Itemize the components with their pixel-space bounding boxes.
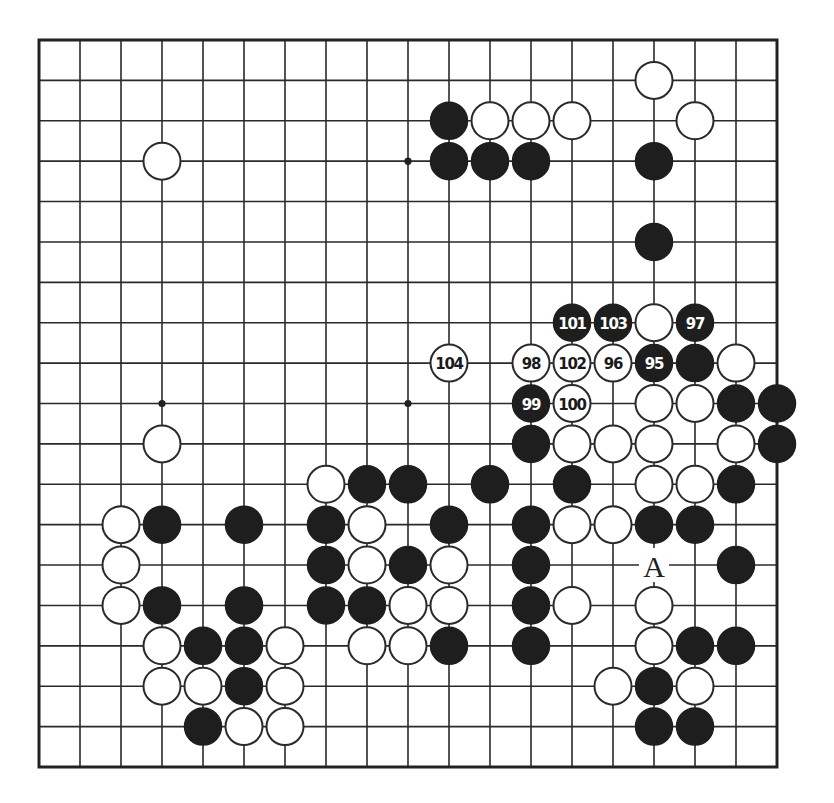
black-stone xyxy=(472,143,509,180)
black-stone xyxy=(144,506,181,543)
black-stone xyxy=(349,466,386,503)
black-stone-icon xyxy=(718,466,755,503)
black-stone xyxy=(390,466,427,503)
white-stone xyxy=(144,143,181,180)
white-stone xyxy=(103,587,140,624)
black-stone-icon xyxy=(677,627,714,664)
white-stone xyxy=(349,627,386,664)
white-stone-icon xyxy=(636,385,673,422)
white-stone xyxy=(431,547,468,584)
black-stone xyxy=(718,466,755,503)
white-stone xyxy=(677,668,714,705)
move-number: 99 xyxy=(522,396,541,414)
black-stone-icon xyxy=(431,506,468,543)
black-stone-icon xyxy=(636,506,673,543)
white-stone-icon xyxy=(103,587,140,624)
black-stone xyxy=(636,223,673,260)
white-stone xyxy=(636,627,673,664)
white-stone xyxy=(554,425,591,462)
black-stone xyxy=(759,385,796,422)
black-stone-icon xyxy=(472,466,509,503)
white-stone-icon xyxy=(267,627,304,664)
white-stone-numbered: 96 xyxy=(595,345,632,382)
black-stone-icon xyxy=(636,668,673,705)
white-stone-icon xyxy=(554,506,591,543)
black-stone xyxy=(513,425,550,462)
white-stone-icon xyxy=(595,668,632,705)
black-stone xyxy=(636,506,673,543)
white-stone xyxy=(636,304,673,341)
black-stone-icon xyxy=(636,223,673,260)
white-stone-icon xyxy=(308,466,345,503)
black-stone-icon xyxy=(513,143,550,180)
white-stone-icon xyxy=(636,425,673,462)
black-stone-numbered: 103 xyxy=(595,304,632,341)
black-stone xyxy=(677,627,714,664)
black-stone-icon xyxy=(554,466,591,503)
black-stone xyxy=(677,708,714,745)
white-stone xyxy=(472,102,509,139)
white-stone xyxy=(513,102,550,139)
white-stone-icon xyxy=(431,547,468,584)
white-stone-numbered: 98 xyxy=(513,345,550,382)
white-stone-icon xyxy=(554,102,591,139)
black-stone xyxy=(349,587,386,624)
black-stone xyxy=(513,506,550,543)
black-stone-icon xyxy=(185,708,222,745)
white-stone-icon xyxy=(636,62,673,99)
white-stone xyxy=(144,668,181,705)
black-stone xyxy=(513,143,550,180)
black-stone xyxy=(636,708,673,745)
white-stone xyxy=(595,425,632,462)
black-stone xyxy=(759,425,796,462)
black-stone-icon xyxy=(431,143,468,180)
white-stone xyxy=(144,425,181,462)
white-stone xyxy=(185,668,222,705)
black-stone-icon xyxy=(513,547,550,584)
black-stone xyxy=(185,708,222,745)
black-stone-numbered: 99 xyxy=(513,385,550,422)
white-stone xyxy=(718,345,755,382)
black-stone xyxy=(144,587,181,624)
move-number: 102 xyxy=(558,355,586,373)
white-stone-icon xyxy=(103,547,140,584)
black-stone xyxy=(431,627,468,664)
white-stone-numbered: 100 xyxy=(554,385,591,422)
move-number: 103 xyxy=(599,315,627,333)
black-stone-icon xyxy=(759,385,796,422)
black-stone-icon xyxy=(349,466,386,503)
black-stone xyxy=(308,506,345,543)
black-stone-icon xyxy=(636,143,673,180)
black-stone-icon xyxy=(308,587,345,624)
white-stone-icon xyxy=(267,668,304,705)
black-stone-icon xyxy=(513,425,550,462)
white-stone xyxy=(226,708,263,745)
white-stone xyxy=(677,385,714,422)
white-stone-icon xyxy=(349,627,386,664)
black-stone xyxy=(226,587,263,624)
black-stone xyxy=(431,506,468,543)
black-stone-icon xyxy=(390,547,427,584)
white-stone-icon xyxy=(718,345,755,382)
black-stone xyxy=(718,547,755,584)
go-board: A 1011039710498102969599100 xyxy=(0,0,834,803)
move-number: 97 xyxy=(686,315,705,333)
white-stone-icon xyxy=(718,425,755,462)
black-stone xyxy=(636,668,673,705)
white-stone-icon xyxy=(103,506,140,543)
white-stone-icon xyxy=(349,547,386,584)
white-stone xyxy=(390,627,427,664)
point-labels: A xyxy=(639,548,669,583)
move-number: 95 xyxy=(645,355,664,373)
white-stone xyxy=(718,425,755,462)
black-stone xyxy=(226,627,263,664)
black-stone-icon xyxy=(636,708,673,745)
white-stone-icon xyxy=(595,506,632,543)
white-stone-icon xyxy=(226,708,263,745)
go-board-diagram: A 1011039710498102969599100 xyxy=(0,0,834,803)
white-stone xyxy=(267,627,304,664)
white-stone xyxy=(267,708,304,745)
black-stone xyxy=(677,506,714,543)
star-point-icon xyxy=(404,158,411,165)
white-stone-icon xyxy=(144,668,181,705)
